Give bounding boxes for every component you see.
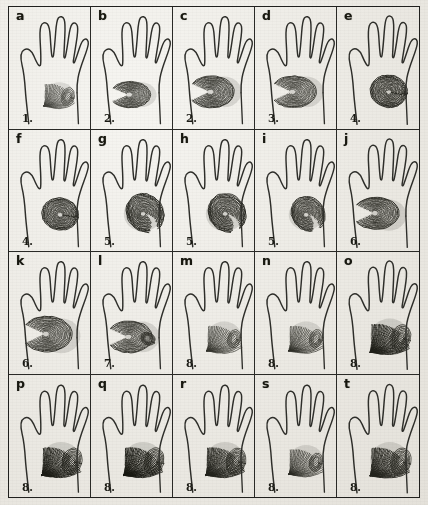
ridge-patch-b [113, 81, 157, 107]
hand-cell-m: m8. [173, 252, 255, 375]
pattern-type-number: 8. [186, 358, 197, 369]
cell-letter-label: o [344, 255, 353, 268]
hand-cell-f: f4. [9, 130, 91, 253]
cell-letter-label: j [344, 133, 348, 146]
cell-letter-label: p [16, 378, 25, 391]
hand-drawing-a [9, 7, 90, 129]
hand-cell-t: t8. [337, 375, 419, 498]
cell-letter-label: k [16, 255, 24, 268]
hand-cell-b: b2. [91, 7, 173, 130]
hand-cell-o: o8. [337, 252, 419, 375]
pattern-type-number: 2. [104, 113, 115, 124]
cell-letter-label: f [16, 133, 21, 146]
wrist-edge [323, 93, 324, 124]
ridge-patch-f [42, 197, 79, 230]
pattern-type-number: 1. [22, 113, 33, 124]
cell-letter-label: g [98, 133, 107, 146]
hand-cell-s: s8. [255, 375, 337, 498]
hand-drawing-j [337, 130, 419, 252]
hand-drawing-i [255, 130, 336, 252]
cell-letter-label: h [180, 133, 189, 146]
cell-letter-label: e [344, 10, 352, 23]
cell-letter-label: q [98, 378, 107, 391]
ridge-patch-m [207, 321, 242, 353]
hand-cell-q: q8. [91, 375, 173, 498]
cell-letter-label: i [262, 133, 266, 146]
hand-drawing-t [337, 375, 419, 498]
hand-drawing-o [337, 252, 419, 374]
pattern-type-number: 3. [268, 113, 279, 124]
wrist-edge [406, 93, 407, 124]
hand-cell-i: i5. [255, 130, 337, 253]
hand-drawing-n [255, 252, 336, 374]
ridge-patch-i [289, 196, 325, 231]
wrist-edge [159, 338, 160, 369]
pattern-type-number: 2. [186, 113, 197, 124]
hand-cell-d: d3. [255, 7, 337, 130]
hand-drawing-q [91, 375, 172, 498]
hand-drawing-m [173, 252, 254, 374]
ridge-patch-c [192, 76, 241, 108]
ridge-patch-h [206, 193, 246, 231]
hand-cell-l: l7. [91, 252, 173, 375]
pattern-type-number: 5. [186, 236, 197, 247]
pattern-type-number: 4. [350, 113, 361, 124]
hand-drawing-g [91, 130, 172, 252]
ridge-patch-d [274, 76, 323, 108]
cell-letter-label: a [16, 10, 24, 23]
hand-drawing-k [9, 252, 90, 374]
ridge-patch-p [42, 442, 82, 478]
hand-cell-c: c2. [173, 7, 255, 130]
ridge-patch-n [289, 321, 324, 353]
cell-letter-label: r [180, 378, 186, 391]
hand-cell-k: k6. [9, 252, 91, 375]
pattern-type-number: 5. [268, 236, 279, 247]
wrist-edge [77, 93, 78, 124]
cell-letter-label: c [180, 10, 187, 23]
pattern-type-number: 4. [22, 236, 33, 247]
wrist-edge [241, 338, 242, 369]
cell-letter-label: t [344, 378, 350, 391]
hand-cell-h: h5. [173, 130, 255, 253]
ridge-patch-o [370, 319, 411, 355]
wrist-edge [159, 93, 160, 124]
figure-plate: a1.b2.c2.d3.e4.f4.g5.h5.i5.j6.k6.l7.m8.n… [0, 0, 428, 505]
hand-cell-a: a1. [9, 7, 91, 130]
wrist-edge [77, 215, 78, 246]
hand-drawing-f [9, 130, 90, 252]
hand-drawing-d [255, 7, 336, 129]
ridge-patch-s [289, 444, 324, 476]
wrist-edge [323, 338, 324, 369]
ridge-patch-k [26, 316, 81, 353]
hand-drawing-e [337, 7, 419, 129]
pattern-type-number: 8. [104, 482, 115, 493]
cell-letter-label: n [262, 255, 271, 268]
pattern-type-number: 8. [268, 358, 279, 369]
hand-drawing-h [173, 130, 254, 252]
pattern-type-number: 8. [22, 482, 33, 493]
wrist-edge [406, 216, 407, 247]
hand-cell-g: g5. [91, 130, 173, 253]
hand-drawing-r [173, 375, 254, 498]
hand-drawing-b [91, 7, 172, 129]
ridge-patch-a [44, 82, 75, 108]
pattern-type-number: 5. [104, 236, 115, 247]
cell-letter-label: s [262, 378, 269, 391]
hand-cell-n: n8. [255, 252, 337, 375]
ridge-patch-l [110, 321, 159, 353]
pattern-type-number: 6. [350, 236, 361, 247]
ridge-patch-j [357, 197, 407, 230]
cell-letter-label: m [180, 255, 193, 268]
wrist-edge [241, 93, 242, 124]
ridge-patch-e [370, 75, 407, 108]
pattern-type-number: 8. [350, 482, 361, 493]
ridge-patch-r [206, 442, 246, 478]
ridge-patch-q [124, 442, 164, 478]
wrist-edge [323, 461, 324, 492]
hand-drawing-s [255, 375, 336, 498]
hand-cell-r: r8. [173, 375, 255, 498]
pattern-type-number: 6. [22, 358, 33, 369]
cell-letter-label: l [98, 255, 102, 268]
hand-grid: a1.b2.c2.d3.e4.f4.g5.h5.i5.j6.k6.l7.m8.n… [8, 6, 420, 498]
cell-letter-label: d [262, 10, 271, 23]
